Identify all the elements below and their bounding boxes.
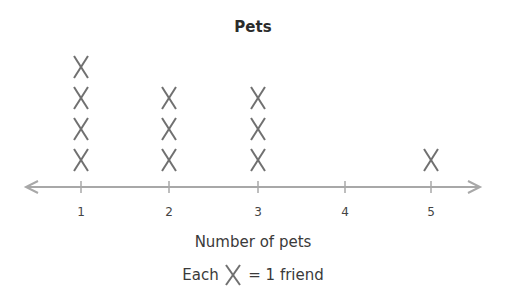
- x-mark-icon: [74, 56, 88, 78]
- tick-label: 2: [165, 205, 173, 219]
- x-mark-icon: [74, 149, 88, 171]
- tick-label: 3: [254, 205, 262, 219]
- x-mark-icon: [251, 149, 265, 171]
- x-mark-icon: [162, 149, 176, 171]
- x-mark-icon: [162, 118, 176, 140]
- x-mark-icon: [424, 149, 438, 171]
- x-mark-icon: [251, 87, 265, 109]
- x-mark-icon: [74, 87, 88, 109]
- x-mark-icon: [251, 118, 265, 140]
- tick-label: 1: [77, 205, 85, 219]
- x-axis-label: Number of pets: [0, 233, 506, 251]
- legend-suffix: = 1 friend: [248, 266, 324, 284]
- legend: Each = 1 friend: [0, 263, 506, 287]
- data-marks: [74, 56, 438, 171]
- tick-label: 4: [341, 205, 349, 219]
- number-line-axis: [26, 181, 480, 193]
- tick-label: 5: [427, 205, 435, 219]
- x-mark-icon: [74, 118, 88, 140]
- x-mark-icon: [223, 263, 243, 287]
- legend-prefix: Each: [182, 266, 218, 284]
- x-mark-icon: [162, 87, 176, 109]
- line-plot: 12345: [0, 0, 506, 230]
